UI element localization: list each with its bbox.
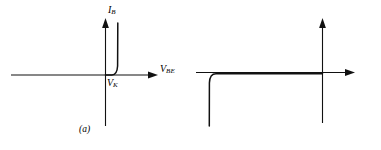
y-axis-b xyxy=(319,18,326,123)
panel-b: IB VBE −VB (b) xyxy=(190,0,381,150)
y-axis-label-a: IB xyxy=(108,4,116,16)
panel-b-plot xyxy=(190,0,381,150)
curve-breakdown-b xyxy=(209,74,322,126)
knee-voltage-label-a: VK xyxy=(107,77,118,89)
x-axis-b xyxy=(196,69,355,76)
caption-a: (a) xyxy=(79,124,90,134)
x-axis-label-a: VBE xyxy=(160,63,175,75)
panel-a: IB VBE VK (a) xyxy=(0,0,190,150)
x-axis-a xyxy=(11,72,158,79)
y-axis-a xyxy=(102,18,109,126)
curve-forward-a xyxy=(106,23,118,75)
figure-container: IB VBE VK (a) IB VBE −VB (b) xyxy=(0,0,381,150)
